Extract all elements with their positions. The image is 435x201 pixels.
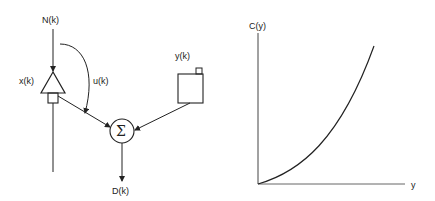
source-to-summer-arrow [135, 103, 190, 130]
figure: N(k) x(k) u(k) y(k) Σ D(k) C(y) y [0, 0, 435, 201]
label-y-source: y(k) [175, 52, 190, 61]
feedback-curve-u [60, 44, 89, 113]
amplifier-base-box [48, 93, 58, 103]
amplifier-triangle-icon [41, 72, 65, 93]
summer-sigma-icon: Σ [116, 124, 126, 138]
graph-x-axis-label: y [411, 181, 416, 190]
label-d: D(k) [112, 187, 129, 196]
source-box-terminal [196, 68, 202, 74]
graph-y-axis-label: C(y) [249, 22, 266, 31]
label-x: x(k) [19, 77, 34, 86]
label-n: N(k) [42, 16, 59, 25]
figure-graphics [0, 0, 435, 201]
label-u: u(k) [93, 77, 109, 86]
graph-curve [258, 46, 374, 184]
amplifier-to-summer-arrow [58, 96, 110, 127]
source-box [178, 74, 203, 103]
